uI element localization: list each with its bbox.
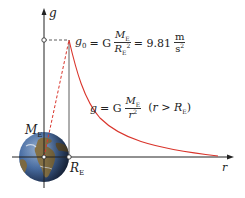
g-denominator: r2 [125,109,142,120]
outside-gravity-formula: g = G ME r2 (r > RE) [90,96,191,120]
g0-num-sub: E [125,35,129,42]
g0-sub: 0 [82,42,86,50]
g0-denominator: RE2 [114,43,131,56]
g-num-M: M [126,95,136,106]
g-symbol: g [90,103,97,114]
earth-mass-subscript: E [37,131,42,139]
y-axis-label: g [49,7,57,19]
origin-marker [42,155,46,159]
g-num-sub: E [136,101,140,108]
x-axis-arrow-icon [227,155,234,160]
g0-den-R: R [114,43,122,54]
earth-mass-symbol: M [25,123,37,137]
g0-equals-G: = G [90,38,112,49]
earth-radius-subscript: E [79,169,84,177]
g0-unit: m s2 [174,32,185,54]
x-axis-label: r [222,162,227,173]
g0-value: = 9.81 [134,38,171,49]
earth-radius-label: RE [70,162,84,177]
cond-close: ) [187,101,191,114]
earth-radius-symbol: R [70,161,79,175]
earth-radius-marker [67,155,71,159]
g-fraction: ME r2 [125,96,142,120]
validity-condition: (r > RE) [148,102,191,115]
surface-gravity-formula: g0 = G ME RE2 = 9.81 m s2 [75,30,185,56]
g-den-sup: 2 [133,108,137,115]
g0-den-sub: E [122,49,126,56]
g0-num-M: M [115,29,125,40]
g-equals-G: = G [100,103,122,114]
g0-unit-den: s2 [174,43,185,54]
g0-fraction: ME RE2 [114,30,131,56]
g0-den-sup: 2 [126,42,130,49]
g0-g: g [75,35,82,48]
y-axis-arrow-icon [42,8,47,15]
g0-unit-sup: 2 [180,42,184,49]
g0-symbol: g0 [75,36,87,50]
earth-mass-label: ME [25,124,42,139]
g0-marker [42,38,46,42]
cond-gt: > [158,101,174,114]
